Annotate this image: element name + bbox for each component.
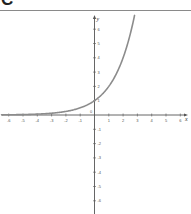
x-tick-label: -2 (64, 118, 68, 123)
x-tick-label: -4 (36, 118, 40, 123)
function-plot: xy-6-5-4-3-2-1123456-6-5-4-3-2-11234560 (0, 0, 191, 214)
y-tick-label: 6 (98, 27, 101, 32)
x-tick-label: -5 (21, 118, 25, 123)
x-tick-label: -1 (78, 118, 82, 123)
y-tick-label: 5 (98, 41, 101, 46)
y-tick-label: 2 (98, 84, 101, 89)
y-tick-label: -6 (98, 198, 102, 203)
x-tick-label: -3 (50, 118, 54, 123)
y-tick-label: -5 (98, 184, 102, 189)
x-tick-label: 3 (136, 118, 139, 123)
x-tick-label: 1 (108, 118, 111, 123)
exponential-curve (2, 15, 135, 114)
y-axis-label: y (96, 16, 100, 22)
x-tick-label: 4 (151, 118, 154, 123)
y-tick-label: -1 (98, 127, 102, 132)
x-tick-label: 6 (179, 118, 182, 123)
x-tick-label: -6 (7, 118, 11, 123)
y-tick-label: 3 (98, 70, 101, 75)
y-tick-label: -2 (98, 141, 102, 146)
x-tick-label: 5 (165, 118, 168, 123)
x-tick-label: 2 (122, 118, 125, 123)
x-axis-label: x (184, 116, 188, 122)
y-tick-label: -4 (98, 170, 102, 175)
origin-label: 0 (90, 109, 93, 114)
y-tick-label: -3 (98, 155, 102, 160)
y-tick-label: 4 (98, 55, 101, 60)
